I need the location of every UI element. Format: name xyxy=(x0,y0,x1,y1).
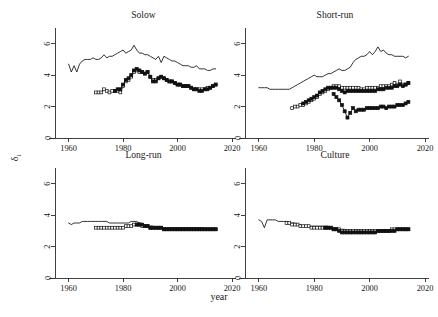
panel-title: Long-run xyxy=(125,149,161,160)
data-marker-open xyxy=(349,86,352,89)
x-tick-label: 2000 xyxy=(361,284,378,293)
y-tick-label: 6 xyxy=(234,182,243,186)
data-marker-filled xyxy=(130,74,133,77)
y-tick-label: 4 xyxy=(234,72,243,77)
data-marker-filled xyxy=(340,104,343,107)
data-marker-open xyxy=(368,86,371,89)
panel-solow: 02461960198020002020Solow xyxy=(44,9,241,153)
panel-long-run: 02461960198020002020Long-run xyxy=(44,149,241,293)
data-marker-filled xyxy=(343,110,346,113)
data-marker-open xyxy=(313,226,316,229)
x-tick-label: 2020 xyxy=(417,284,434,293)
x-tick-label: 1960 xyxy=(60,144,77,153)
data-marker-filled xyxy=(127,77,130,80)
data-marker-open xyxy=(393,82,396,85)
panel-title: Short-run xyxy=(317,9,354,20)
data-marker-filled xyxy=(214,83,217,86)
y-tick-label: 2 xyxy=(234,244,243,248)
data-marker-open xyxy=(379,85,382,88)
data-marker-open xyxy=(302,225,305,228)
data-marker-filled xyxy=(122,83,125,86)
data-marker-open xyxy=(357,86,360,89)
y-tick-label: 6 xyxy=(44,42,53,46)
data-marker-filled xyxy=(316,94,319,97)
panel-title: Culture xyxy=(321,149,350,160)
data-marker-open xyxy=(285,222,288,225)
y-tick-label: 0 xyxy=(44,136,53,140)
y-tick-label: 0 xyxy=(234,276,243,280)
x-tick-label: 1960 xyxy=(250,144,267,153)
data-marker-open xyxy=(307,225,310,228)
x-tick-label: 1960 xyxy=(60,284,77,293)
panel-title: Solow xyxy=(131,9,156,20)
data-marker-open xyxy=(346,86,349,89)
y-tick-label: 0 xyxy=(44,276,53,280)
y-axis-title-text: δi xyxy=(9,155,22,162)
panel-short-run: 02461960198020002020Short-run xyxy=(234,9,434,153)
y-tick-label: 4 xyxy=(44,212,53,217)
series-solid-upper xyxy=(259,47,409,89)
multi-panel-line-chart: 02461960198020002020Solow024619601980200… xyxy=(0,0,438,317)
data-marker-filled xyxy=(146,71,149,74)
x-tick-label: 2020 xyxy=(224,144,241,153)
y-tick-label: 4 xyxy=(234,212,243,217)
data-marker-open xyxy=(296,105,299,108)
x-tick-label: 2020 xyxy=(417,144,434,153)
y-tick-label: 6 xyxy=(44,182,53,186)
data-marker-filled xyxy=(154,80,157,83)
x-tick-label: 1960 xyxy=(250,284,267,293)
x-tick-label: 2000 xyxy=(361,144,378,153)
data-marker-filled xyxy=(349,111,352,114)
data-marker-filled xyxy=(352,107,355,110)
data-marker-open xyxy=(305,225,308,228)
data-marker-open xyxy=(354,86,357,89)
data-marker-open xyxy=(296,223,299,226)
x-tick-label: 1980 xyxy=(306,284,323,293)
y-axis-title-subscript: i xyxy=(15,155,22,157)
figure-panel-grid: 02461960198020002020Solow024619601980200… xyxy=(0,0,438,317)
data-marker-filled xyxy=(214,228,217,231)
x-tick-label: 2000 xyxy=(169,284,186,293)
data-marker-filled xyxy=(119,88,122,91)
data-marker-open xyxy=(343,86,346,89)
y-tick-label: 6 xyxy=(234,42,243,46)
y-tick-label: 2 xyxy=(44,244,53,248)
data-marker-filled xyxy=(149,75,152,78)
data-marker-filled xyxy=(338,99,341,102)
y-tick-label: 4 xyxy=(44,72,53,77)
data-marker-filled xyxy=(407,228,410,231)
y-tick-label: 2 xyxy=(234,104,243,108)
data-marker-filled xyxy=(407,100,410,103)
data-marker-open xyxy=(288,222,291,225)
data-marker-filled xyxy=(346,116,349,119)
data-marker-open xyxy=(352,86,355,89)
y-tick-label: 2 xyxy=(44,104,53,108)
data-marker-filled xyxy=(335,96,338,99)
x-tick-label: 1980 xyxy=(115,284,132,293)
data-marker-open xyxy=(371,86,374,89)
x-tick-label: 2000 xyxy=(169,144,186,153)
data-marker-open xyxy=(399,80,402,83)
data-marker-open xyxy=(299,225,302,228)
data-marker-open xyxy=(291,223,294,226)
data-marker-filled xyxy=(407,82,410,85)
data-marker-filled xyxy=(332,93,335,96)
panel-culture: 02461960198020002020Culture xyxy=(234,149,434,293)
data-marker-open xyxy=(365,86,368,89)
data-marker-open xyxy=(293,105,296,108)
data-marker-open xyxy=(291,107,294,110)
data-marker-open xyxy=(119,91,122,94)
data-marker-open xyxy=(310,226,313,229)
data-marker-open xyxy=(318,226,321,229)
data-marker-open xyxy=(316,226,319,229)
y-axis-title: δi xyxy=(9,155,22,162)
y-tick-label: 0 xyxy=(234,136,243,140)
data-marker-open xyxy=(293,223,296,226)
x-axis-title: year xyxy=(210,291,228,302)
data-marker-open xyxy=(100,91,103,94)
series-solid-upper xyxy=(69,45,216,72)
